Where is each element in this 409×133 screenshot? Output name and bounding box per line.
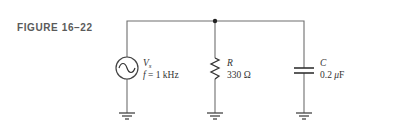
ground-icon [296,113,312,119]
resistor-value: 330 Ω [227,70,251,80]
ground-icon [207,113,223,119]
source-frequency: f = 1 kHz [143,70,179,80]
resistor-label: R [226,58,233,68]
circuit-diagram: Vs f = 1 kHz R 330 Ω C 0.2 μF [0,0,409,133]
ground-icon [119,113,135,119]
resistor-icon [211,58,219,79]
capacitor-value: 0.2 μF [320,70,344,80]
ac-source-icon [116,57,138,79]
junction-node [213,19,217,23]
source-label: Vs [143,58,152,70]
capacitor-label: C [320,58,327,68]
capacitor-icon [294,68,314,73]
wires [127,21,304,113]
